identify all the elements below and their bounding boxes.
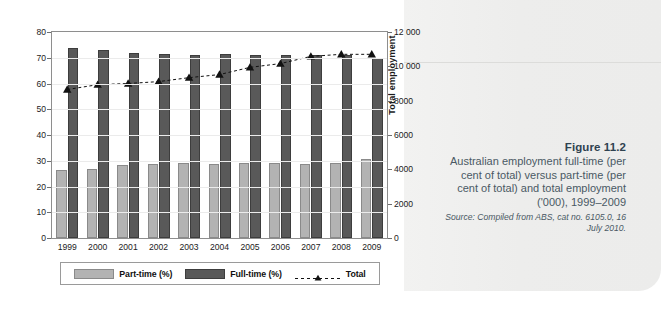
figure-number: Figure 11.2 <box>440 140 626 154</box>
y2-axis-tick-mark <box>388 204 392 205</box>
total-marker-triangle-icon <box>215 70 223 77</box>
y2-axis-tick-label: 6000 <box>394 130 413 140</box>
y2-axis-tick-mark <box>388 101 392 102</box>
legend-item-part-time: Part-time (%) <box>74 269 172 279</box>
gridline <box>52 84 387 85</box>
y2-axis-tick-mark <box>388 66 392 67</box>
y-axis-tick-label: 50 <box>36 104 46 114</box>
chart-legend: Part-time (%) Full-time (%) Total <box>60 262 380 285</box>
y-axis-tick-label: 10 <box>36 207 46 217</box>
x-axis-tick-label: 2003 <box>179 242 198 252</box>
x-axis-tick-label: 2009 <box>362 242 381 252</box>
x-axis-tick-label: 1999 <box>58 242 77 252</box>
y-axis-tick-label: 30 <box>36 156 46 166</box>
x-axis-tick-label: 2001 <box>119 242 138 252</box>
figure-container: Figure 11.2 Australian employment full-t… <box>0 0 661 315</box>
gridline <box>52 109 387 110</box>
total-marker-triangle-icon <box>276 59 284 66</box>
y2-axis-tick-mark <box>388 238 392 239</box>
chart: % of total Total employment 010203040506… <box>0 0 404 315</box>
gridline <box>52 135 387 136</box>
y2-axis-tick-label: 12 000 <box>394 27 420 37</box>
gridline <box>52 58 387 59</box>
x-axis-tick-label: 2006 <box>271 242 290 252</box>
y-axis-tick-labels: 01020304050607080 <box>24 31 46 239</box>
y-axis-tick-label: 60 <box>36 79 46 89</box>
y2-axis-tick-mark <box>388 169 392 170</box>
total-marker-triangle-icon <box>368 50 376 57</box>
y-axis-tick-label: 70 <box>36 53 46 63</box>
y2-axis-tick-labels: 0200040006000800010 00012 000 <box>394 31 438 239</box>
panel-hairline <box>404 62 661 63</box>
x-axis-tick-label: 2005 <box>240 242 259 252</box>
gridline <box>52 161 387 162</box>
y2-axis-tick-label: 0 <box>394 233 399 243</box>
legend-label-full-time: Full-time (%) <box>230 269 281 279</box>
x-axis-tick-label: 2008 <box>332 242 351 252</box>
x-axis-tick-labels: 1999200020012002200320042005200620072008… <box>51 242 388 256</box>
legend-item-full-time: Full-time (%) <box>185 269 281 279</box>
x-axis-tick-label: 2007 <box>301 242 320 252</box>
y2-axis-tick-label: 2000 <box>394 199 413 209</box>
y2-axis-tick-mark <box>388 135 392 136</box>
figure-source: Source: Compiled from ABS, cat no. 6105.… <box>440 212 626 233</box>
total-marker-triangle-icon <box>337 50 345 57</box>
gridline <box>52 187 387 188</box>
y-axis-tick-label: 80 <box>36 27 46 37</box>
legend-item-total: Total <box>295 269 366 279</box>
legend-label-part-time: Part-time (%) <box>119 269 172 279</box>
gridline <box>52 212 387 213</box>
y2-axis-ticks <box>388 31 393 239</box>
y-axis-tick-label: 40 <box>36 130 46 140</box>
x-axis-tick-label: 2002 <box>149 242 168 252</box>
plot-area <box>51 31 388 239</box>
y-axis-tick-label: 20 <box>36 182 46 192</box>
legend-swatch-part-time-icon <box>74 269 114 279</box>
y2-axis-tick-label: 4000 <box>394 164 413 174</box>
y2-axis-tick-mark <box>388 32 392 33</box>
legend-label-total: Total <box>346 269 366 279</box>
legend-swatch-full-time-icon <box>185 269 225 279</box>
figure-description: Australian employment full-time (per cen… <box>440 155 626 209</box>
x-axis-tick-label: 2000 <box>88 242 107 252</box>
figure-caption: Figure 11.2 Australian employment full-t… <box>440 140 626 234</box>
y2-axis-tick-label: 10 000 <box>394 61 420 71</box>
x-axis-tick-label: 2004 <box>210 242 229 252</box>
y2-axis-tick-label: 8000 <box>394 96 413 106</box>
legend-dashed-line-triangle-icon <box>295 269 341 278</box>
